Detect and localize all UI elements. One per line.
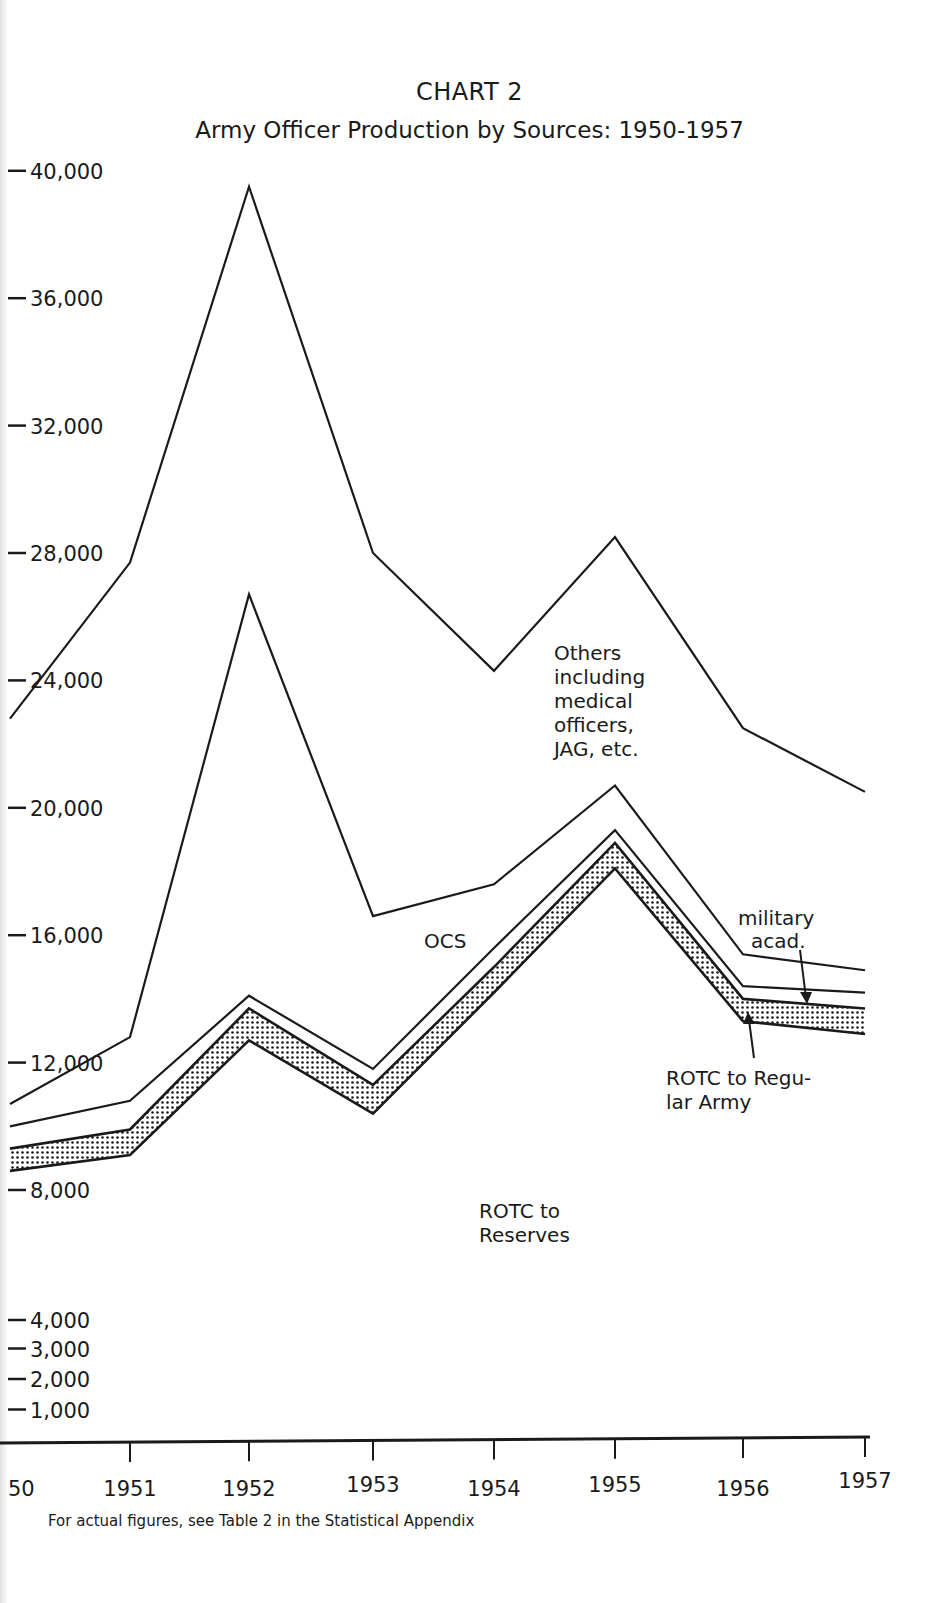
x-tick-label: 1954 [467,1477,520,1501]
footnote: For actual figures, see Table 2 in the S… [48,1512,474,1530]
x-tick-label: 1953 [346,1473,399,1497]
annotation-rotc-reserves: ROTC to Reserves [479,1199,570,1247]
x-tick-label: 1957 [838,1469,891,1493]
y-tick-label: 3,000 [30,1338,90,1362]
arrow-rotc-regular-army [749,1020,754,1058]
y-tick-label: 16,000 [30,924,103,948]
x-axis-baseline [0,1437,870,1443]
x-tick-label: 1955 [588,1473,641,1497]
x-tick-label: 1956 [716,1477,769,1501]
line-others-total [10,187,865,792]
y-tick-label: 36,000 [30,287,103,311]
y-tick-label: 1,000 [30,1399,90,1423]
y-tick-label: 40,000 [30,160,103,184]
y-tick-label: 2,000 [30,1368,90,1392]
y-tick-label: 20,000 [30,797,103,821]
annotation-rotc-regular-army: ROTC to Regu- lar Army [666,1066,818,1114]
annotation-others: Others including medical officers, JAG, … [552,641,651,761]
x-tick-label: 1952 [222,1477,275,1501]
y-tick-label: 32,000 [30,415,103,439]
series-annotations: Others including medical officers, JAG, … [424,641,821,1247]
y-axis: 40,00036,00032,00028,00024,00020,00016,0… [8,160,103,1423]
y-tick-label: 28,000 [30,542,103,566]
series-lines [10,187,865,1171]
arrow-military-acad [800,950,806,998]
y-tick-label: 4,000 [30,1309,90,1333]
x-axis: 501951195219531954195519561957 [0,1437,892,1501]
y-tick-label: 8,000 [30,1179,90,1203]
annotation-ocs: OCS [424,929,466,953]
x-tick-label: 50 [8,1477,35,1501]
arrowhead-military-acad-icon [800,992,812,1004]
annotation-military-acad: military acad. [738,906,821,953]
y-tick-label: 24,000 [30,669,103,693]
chart-plot-area: 40,00036,00032,00028,00024,00020,00016,0… [0,0,939,1603]
x-tick-label: 1951 [103,1477,156,1501]
